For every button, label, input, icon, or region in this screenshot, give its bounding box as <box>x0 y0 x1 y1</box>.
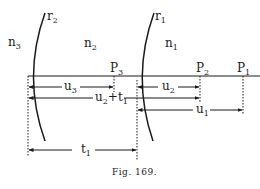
label-r2: r2 <box>47 9 58 25</box>
label-r1: r1 <box>155 9 166 25</box>
label-u2: u2 <box>162 79 175 95</box>
surface-r1-curve <box>142 13 154 141</box>
label-p2: P2 <box>196 61 209 77</box>
label-p3: P3 <box>110 61 123 77</box>
label-p1: P1 <box>237 61 250 77</box>
label-t1: t1 <box>81 142 91 158</box>
surface-r2-curve <box>34 13 46 141</box>
figure-caption: Fig. 169. <box>112 167 157 177</box>
label-n3: n3 <box>8 35 21 51</box>
label-u1: u1 <box>196 102 209 118</box>
label-u2-plus-t1: u2+t1 <box>95 90 128 106</box>
optics-diagram: r2 r1 n3 n2 n1 P3 P2 P1 u3 u2 u2+t1 u1 t… <box>0 0 260 189</box>
label-n1: n1 <box>165 36 178 52</box>
label-n2: n2 <box>84 36 97 52</box>
label-u3: u3 <box>64 79 77 95</box>
